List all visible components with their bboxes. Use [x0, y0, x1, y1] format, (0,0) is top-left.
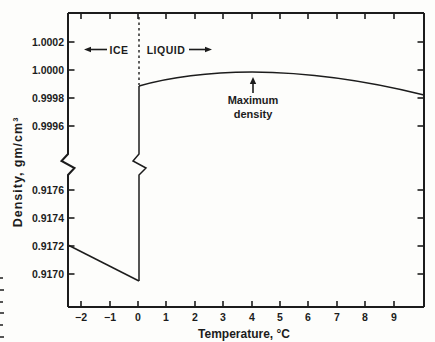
y-tick-label: 0.9998: [32, 92, 64, 104]
x-tick-label: 7: [334, 311, 340, 323]
phase-transition-jump-line: [133, 86, 146, 281]
liquid-arrow: [189, 47, 212, 52]
y-tick-label: 0.9996: [32, 120, 64, 132]
x-tick-label: 0: [135, 311, 141, 323]
ice-arrowhead-icon: [84, 47, 91, 52]
liquid-arrowhead-icon: [205, 47, 212, 52]
figure-page: ICE LIQUID Maximum density 1.0002 1.0000…: [0, 0, 435, 342]
x-tick-label: 9: [391, 311, 397, 323]
max-density-arrowhead-icon: [250, 77, 256, 84]
x-tick-label: 5: [277, 311, 283, 323]
x-tick-label: 6: [305, 311, 311, 323]
y-tick-label: 0.9174: [32, 212, 64, 224]
x-tick-label: −2: [75, 311, 87, 323]
x-tick-label: 2: [192, 311, 198, 323]
y-tick-label: 0.9176: [32, 184, 64, 196]
x-tick-label: 1: [163, 311, 169, 323]
x-tick-label: 8: [362, 311, 368, 323]
max-density-annotation-line1: Maximum: [228, 94, 279, 106]
x-tick-label: −1: [104, 311, 116, 323]
y-axis-with-break: [62, 13, 75, 307]
y-tick-label: 0.9172: [32, 240, 64, 252]
page-edge-artifact: [0, 277, 4, 338]
ice-arrow: [84, 47, 107, 52]
x-axis-title: Temperature, °C: [198, 327, 290, 341]
x-tick-label: 3: [220, 311, 226, 323]
liquid-region-label: LIQUID: [147, 44, 186, 56]
ice-region-label: ICE: [109, 44, 128, 56]
max-density-arrow: [250, 77, 256, 93]
max-density-annotation-line2: density: [234, 108, 273, 120]
y-tick-label: 1.0002: [32, 36, 64, 48]
y-axis-title: Density, gm/cm³: [11, 117, 25, 228]
y-tick-label: 1.0000: [32, 64, 64, 76]
y-tick-label: 0.9170: [32, 268, 64, 280]
density-temperature-chart: ICE LIQUID Maximum density 1.0002 1.0000…: [0, 0, 435, 342]
liquid-density-curve: [139, 72, 424, 95]
x-tick-label: 4: [249, 311, 255, 323]
ice-density-line: [68, 245, 139, 281]
